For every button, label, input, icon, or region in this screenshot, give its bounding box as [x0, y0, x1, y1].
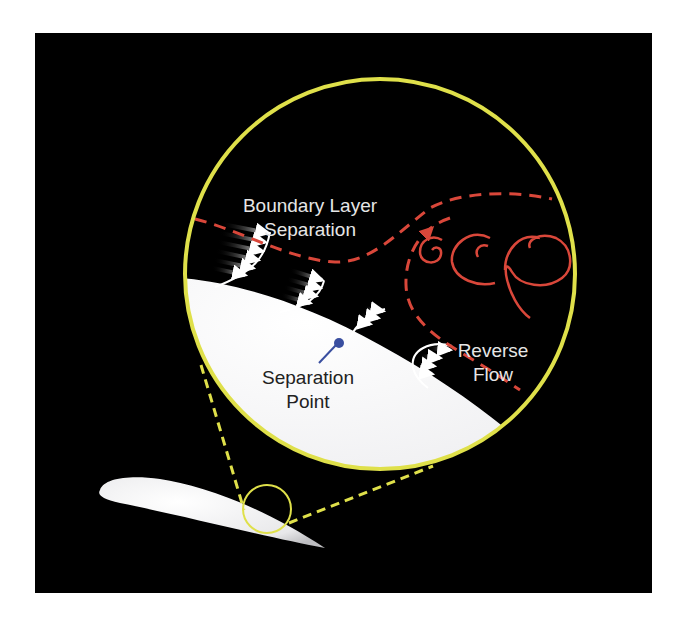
label-reverse-flow-l2: Flow	[473, 364, 513, 385]
label-separation-point-l1: Separation	[262, 367, 354, 388]
label-reverse-flow-l1: Reverse	[458, 340, 529, 361]
label-boundary-layer-separation-l2: Separation	[264, 219, 356, 240]
label-separation-point-l2: Point	[286, 391, 330, 412]
separation-point-marker	[334, 338, 344, 348]
label-boundary-layer-separation-l1: Boundary Layer	[243, 195, 378, 216]
boundary-layer-diagram: Boundary Layer Separation Separation Poi…	[0, 0, 682, 623]
